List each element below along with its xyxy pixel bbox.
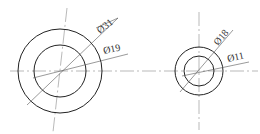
left-inner-diameter-label: Ø19 bbox=[102, 42, 121, 56]
right-outer-diameter-label: Ø18 bbox=[211, 27, 231, 47]
left-outer-diameter-label: Ø31 bbox=[94, 16, 114, 35]
technical-drawing: Ø31 Ø19 Ø18 Ø11 bbox=[0, 0, 260, 134]
left-view: Ø31 Ø19 bbox=[18, 8, 128, 132]
left-inner-dimension-line bbox=[33, 54, 128, 78]
right-inner-dimension-line bbox=[182, 62, 249, 76]
right-inner-diameter-label: Ø11 bbox=[226, 50, 245, 64]
